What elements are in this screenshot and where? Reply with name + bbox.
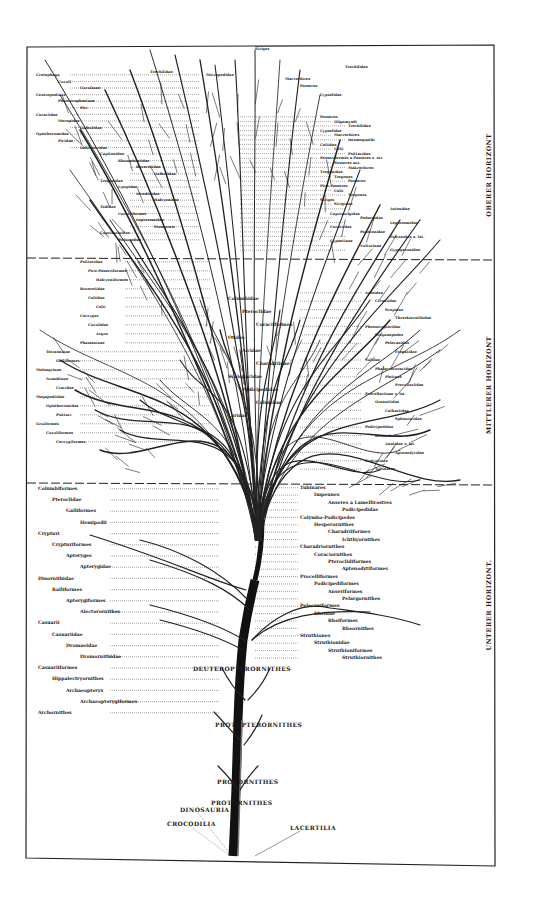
tree-branch bbox=[150, 605, 244, 640]
taxon-label-upper-left: Coraciidae bbox=[36, 113, 58, 117]
tree-twig bbox=[76, 195, 91, 210]
taxon-label-upper-left: Bucerotidae bbox=[136, 165, 161, 169]
tree-twig bbox=[90, 163, 99, 180]
taxon-label-middle-left: Numidinae bbox=[46, 377, 69, 381]
taxon-label-upper-left: Galbulidae bbox=[80, 126, 102, 130]
stem-label-deuteropterornithes: DEUTEROPTERORNITHES bbox=[193, 665, 291, 672]
taxon-label-lower-left: Hippalectryornithes bbox=[52, 676, 104, 682]
taxon-label-middle-right: Diomedeidae bbox=[375, 434, 402, 438]
taxon-label-upper-right: Colii bbox=[334, 189, 344, 193]
taxon-label-middle-left: Coccygiformes bbox=[56, 440, 86, 444]
tree-twig bbox=[118, 247, 120, 261]
taxon-label-upper-left: Steatornis bbox=[154, 225, 175, 229]
taxon-label-upper-left: Meropidae bbox=[58, 119, 80, 123]
taxon-label-middle-left: Argus bbox=[95, 332, 108, 336]
taxon-label-lower-right: Struthioniformes bbox=[328, 648, 373, 653]
taxon-label-middle-center: Podicipedidae bbox=[242, 387, 278, 392]
tree-twig bbox=[116, 456, 129, 466]
taxon-label-upper-left: Pici bbox=[80, 106, 88, 110]
taxon-label-middle-right: Podicipedidae bbox=[365, 425, 394, 429]
taxon-label-lower-right: Struthionidae bbox=[314, 640, 350, 645]
phylogenetic-tree-plate: OBERER HORIZONT MITTLERER HORIZONT UNTER… bbox=[0, 0, 533, 922]
tree-twig bbox=[424, 490, 440, 491]
taxon-label-upper-top: Trochilidae bbox=[150, 70, 173, 74]
taxon-label-middle-left: Opisthocomidae bbox=[46, 404, 79, 408]
taxon-label-upper-left: Alcedinidae bbox=[135, 192, 160, 196]
taxon-label-lower-right: Coraciornithes bbox=[314, 552, 353, 557]
taxon-label-upper-right: Makrochires bbox=[348, 166, 373, 170]
tree-twig bbox=[292, 340, 301, 360]
taxon-label-upper-left: Opisthocomidae bbox=[36, 132, 69, 136]
tree-twig bbox=[294, 322, 296, 344]
taxon-label-upper-left: Phoenicophaeinae bbox=[58, 99, 96, 103]
tree-twig bbox=[198, 392, 199, 405]
taxon-label-upper-right: Desmognathi bbox=[348, 138, 375, 142]
tree-twig bbox=[420, 262, 429, 273]
taxon-label-lower-left: Alectorornithes bbox=[79, 609, 121, 614]
taxon-label-lower-left: Crypturiformes bbox=[52, 542, 92, 548]
taxon-label-upper-right: Coraciidae bbox=[330, 225, 352, 229]
tree-twig bbox=[402, 239, 410, 255]
taxon-label-middle-left: Cuculidae bbox=[88, 323, 109, 327]
tree-twig bbox=[366, 338, 377, 359]
taxon-label-lower-right: Charadriiformes bbox=[328, 529, 371, 534]
taxon-label-upper-right: Podargidae bbox=[360, 216, 383, 220]
taxon-label-upper-left: Galbulidae bbox=[154, 172, 176, 176]
tree-branch bbox=[140, 540, 248, 600]
taxon-label-upper-left: Coraciiformes bbox=[118, 212, 146, 216]
taxon-label-upper-right: Strigidae bbox=[334, 202, 353, 206]
taxon-label-middle-left: Phasianinae bbox=[80, 341, 105, 345]
taxon-label-upper-left: Capitonidae bbox=[100, 152, 125, 156]
tree-twig bbox=[278, 100, 283, 113]
taxon-label-lower-right: Struthiornithes bbox=[342, 655, 382, 660]
taxon-label-middle-center: Alcidae bbox=[241, 348, 261, 353]
taxon-label-middle-right: Phalacrocoracidae bbox=[375, 367, 413, 371]
taxon-label-upper-left: Picidae bbox=[58, 139, 73, 143]
taxon-label-upper-right: Trogones bbox=[334, 175, 353, 179]
taxon-label-lower-left: Archaeopteryx bbox=[65, 688, 103, 694]
taxon-label-middle-left: Colii bbox=[96, 305, 106, 309]
taxon-label-lower-left: Apteryges bbox=[65, 553, 92, 559]
label-group: CrotophagaCuculiCuculinaeCentropodinaePh… bbox=[36, 47, 432, 715]
taxon-label-upper-right: Cypselidae bbox=[320, 129, 342, 133]
taxon-label-lower-right: Hesperornithes bbox=[314, 522, 354, 527]
taxon-label-lower-left: Dromornithidae bbox=[80, 654, 121, 659]
tree-twig bbox=[350, 272, 359, 289]
tree-twig bbox=[190, 153, 195, 176]
taxon-label-lower-left: Apterygidae bbox=[79, 564, 111, 570]
horizon-label-middle: MITTLERER HORIZONT bbox=[485, 336, 493, 434]
taxon-label-upper-left: Centropodinae bbox=[36, 93, 66, 97]
tree-twig bbox=[116, 243, 117, 262]
taxon-label-lower-right: Impennes bbox=[314, 492, 340, 497]
taxon-label-upper-left: Leptosomidae bbox=[136, 218, 165, 222]
taxon-label-upper-right: Gypogeranidae bbox=[390, 248, 421, 252]
taxon-label-middle-right: Pelecanidae bbox=[385, 341, 410, 345]
taxon-label-upper-right: Asionidae bbox=[389, 207, 410, 211]
taxon-label-middle-left: Coliidae bbox=[88, 296, 105, 300]
tree-twig bbox=[227, 362, 229, 382]
taxon-label-upper-top: Cypselidae bbox=[320, 93, 342, 97]
taxon-label-lower-right: Colymbo-Podicipedes bbox=[300, 515, 355, 521]
taxon-label-lower-right: Struthiones bbox=[300, 633, 331, 638]
tree-branch bbox=[248, 668, 270, 700]
taxon-label-middle-left: Cuculiformes bbox=[46, 431, 73, 435]
taxon-label-upper-right: Gypaetinae bbox=[330, 239, 353, 243]
taxon-label-lower-right: Anseres a Lamellirostres bbox=[327, 500, 392, 505]
taxon-label-upper-top: Micropodidae bbox=[206, 73, 234, 77]
taxon-label-middle-right: Spheniscidae bbox=[395, 417, 422, 421]
taxon-label-upper-right: Leptosomidae bbox=[390, 221, 419, 225]
taxon-label-lower-right: Pelargornithes bbox=[342, 596, 381, 602]
stem-label-protopterornithes: PROTOPTERORNITHES bbox=[215, 721, 302, 728]
tree-twig bbox=[129, 444, 145, 450]
taxon-label-middle-left: Psittaci bbox=[56, 413, 72, 417]
tree-branch bbox=[90, 535, 246, 590]
taxon-label-middle-right: Plotinae bbox=[385, 375, 402, 379]
taxon-label-lower-right: Tubinares bbox=[300, 485, 326, 490]
stem-label-protornithes-1: PROTORNITHES bbox=[211, 799, 273, 806]
taxon-label-upper-left: Cuculinae bbox=[80, 86, 101, 90]
taxon-label-lower-right: Podicipedidae bbox=[342, 507, 378, 512]
taxon-label-middle-right: Ardeidae bbox=[364, 291, 384, 295]
tree-twig bbox=[438, 345, 448, 354]
taxon-label-middle-left: Pico-Passeriformes bbox=[88, 269, 127, 273]
taxon-label-lower-right: Aptenodytiformes bbox=[341, 566, 388, 572]
